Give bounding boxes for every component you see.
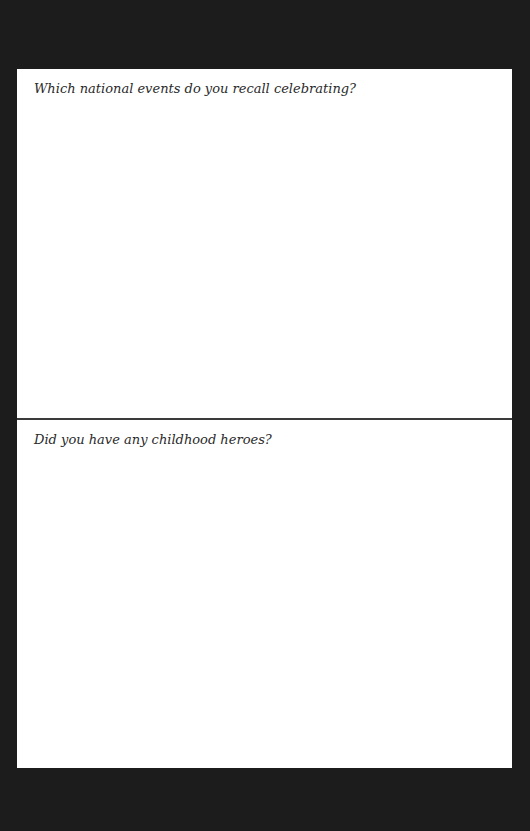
prompt-text: Did you have any childhood heroes? (34, 432, 272, 447)
journal-page: Which national events do you recall cele… (17, 69, 512, 768)
prompt-section-national-events: Which national events do you recall cele… (17, 69, 512, 418)
answer-area (34, 105, 495, 408)
answer-area (34, 456, 495, 758)
prompt-section-childhood-heroes: Did you have any childhood heroes? (17, 420, 512, 768)
prompt-text: Which national events do you recall cele… (34, 81, 356, 96)
